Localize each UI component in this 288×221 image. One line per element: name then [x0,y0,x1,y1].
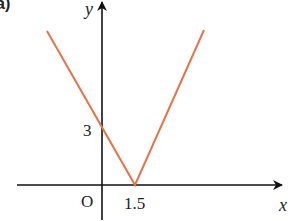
graph-figure [0,0,288,221]
origin-label: O [81,193,93,210]
x-axis-label: x [279,196,287,214]
function-line [47,30,204,185]
y-intercept-label: 3 [83,122,92,139]
x-intercept-label: 1.5 [124,195,145,212]
part-label: a) [0,0,10,12]
y-axis-label: y [85,0,93,18]
